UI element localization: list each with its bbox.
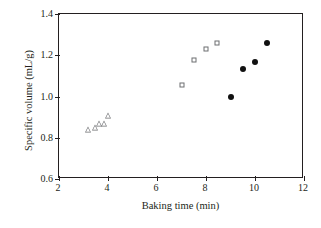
x-tick-label-1: 4 <box>105 182 110 193</box>
y-tick-label-0: 0.6 <box>41 173 54 184</box>
x-tick-label-5: 12 <box>298 182 308 193</box>
y-tick-0 <box>55 179 60 180</box>
x-tick-label-3: 8 <box>203 182 208 193</box>
triangle-fill <box>102 122 106 126</box>
y-axis-title: Specific volume (mL/g) <box>23 21 34 181</box>
triangle-fill <box>106 114 110 118</box>
x-tick-label-4: 10 <box>249 182 259 193</box>
y-tick-label-3: 1.2 <box>41 49 54 60</box>
data-points-layer <box>59 14 302 177</box>
x-tick-5 <box>304 176 305 181</box>
y-tick-label-4: 1.4 <box>41 8 54 19</box>
data-point-square-0 <box>179 82 184 87</box>
data-point-circle-1 <box>240 66 246 72</box>
x-axis-title: Baking time (min) <box>58 200 303 211</box>
y-tick-label-1: 0.8 <box>41 131 54 142</box>
y-tick-label-2: 1.0 <box>41 90 54 101</box>
x-tick-label-2: 6 <box>154 182 159 193</box>
data-point-square-3 <box>215 40 220 45</box>
plot-area <box>58 13 303 178</box>
data-point-circle-3 <box>264 40 270 46</box>
data-point-circle-2 <box>252 59 258 65</box>
x-tick-label-0: 2 <box>56 182 61 193</box>
data-point-square-2 <box>204 47 209 52</box>
triangle-fill <box>86 127 90 131</box>
data-point-circle-0 <box>228 94 234 100</box>
figure: Specific volume (mL/g) Baking time (min)… <box>0 0 321 228</box>
data-point-square-1 <box>191 57 196 62</box>
